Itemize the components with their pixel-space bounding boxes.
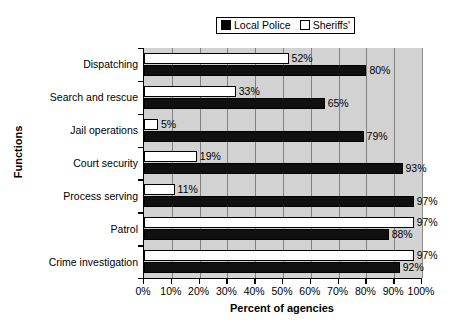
bar-sheriffs: [144, 86, 236, 97]
x-axis-tick-label: 50%: [271, 285, 292, 298]
x-axis-tick-label: 100%: [408, 285, 435, 298]
legend-item-sheriffs: Sheriffs': [300, 19, 350, 31]
bar-sheriffs: [144, 217, 414, 228]
y-axis-category-label: Patrol: [111, 223, 138, 235]
bar-value-label-local-police: 65%: [325, 98, 349, 109]
bar-local-police: [144, 98, 325, 109]
bar-value-label-sheriffs: 97%: [414, 250, 438, 261]
legend-swatch-sheriffs-icon: [300, 20, 310, 30]
x-axis-tick-label: 60%: [299, 285, 320, 298]
bar-sheriffs: [144, 53, 289, 64]
x-axis-tick: [199, 279, 200, 284]
x-axis-tick: [310, 279, 311, 284]
bar-sheriffs: [144, 250, 414, 261]
x-axis-tick: [421, 279, 422, 284]
bar-value-label-local-police: 79%: [364, 131, 388, 142]
x-axis-tick-label: 30%: [216, 285, 237, 298]
bar-sheriffs: [144, 184, 175, 195]
bar-value-label-sheriffs: 19%: [197, 151, 221, 162]
x-axis-tick-label: 70%: [327, 285, 348, 298]
bar-sheriffs: [144, 151, 197, 162]
y-axis-category-label: Jail operations: [70, 124, 138, 136]
chart-bar-group: 19%93%: [144, 147, 422, 180]
y-axis-category-label: Dispatching: [83, 58, 138, 70]
bar-value-label-sheriffs: 97%: [414, 217, 438, 228]
x-axis-tick: [393, 279, 394, 284]
x-axis-tick-label: 10%: [160, 285, 181, 298]
x-axis-tick-label: 0%: [135, 285, 150, 298]
bar-local-police: [144, 229, 389, 240]
x-axis-ticks: [143, 279, 421, 284]
legend-label-sheriffs: Sheriffs': [313, 19, 350, 31]
y-axis-category-label: Crime investigation: [49, 256, 138, 268]
bar-value-label-local-police: 93%: [403, 163, 427, 174]
y-axis-category-labels: DispatchingSearch and rescueJail operati…: [0, 48, 138, 278]
x-axis-tick: [171, 279, 172, 284]
x-axis-tick-label: 20%: [188, 285, 209, 298]
chart-legend: Local Police Sheriffs': [216, 17, 355, 34]
chart-plot-area: 52%80%33%65%5%79%19%93%11%97%97%88%97%92…: [143, 48, 422, 279]
bar-local-police: [144, 131, 364, 142]
x-axis-tick: [338, 279, 339, 284]
x-axis-tick: [254, 279, 255, 284]
chart-bar-group: 33%65%: [144, 81, 422, 114]
bar-value-label-sheriffs: 33%: [236, 86, 260, 97]
bar-value-label-local-police: 88%: [389, 229, 413, 240]
bar-sheriffs: [144, 119, 158, 130]
bar-local-police: [144, 196, 414, 207]
chart-bar-group: 97%92%: [144, 245, 422, 278]
bar-value-label-sheriffs: 52%: [289, 53, 313, 64]
legend-swatch-local-police-icon: [221, 20, 231, 30]
y-axis-category-label: Court security: [73, 157, 138, 169]
bar-local-police: [144, 262, 400, 273]
bar-local-police: [144, 65, 366, 76]
x-axis-tick: [282, 279, 283, 284]
bar-value-label-local-police: 97%: [414, 196, 438, 207]
x-axis-tick-label: 90%: [383, 285, 404, 298]
x-axis-tick: [365, 279, 366, 284]
chart-bar-group: 52%80%: [144, 48, 422, 81]
bar-value-label-local-police: 80%: [366, 65, 390, 76]
chart-bar-group: 97%88%: [144, 212, 422, 245]
bar-local-police: [144, 163, 403, 174]
bar-value-label-sheriffs: 5%: [158, 119, 176, 130]
y-axis-category-label: Process serving: [63, 190, 138, 202]
legend-label-local-police: Local Police: [234, 19, 291, 31]
chart-bar-group: 11%97%: [144, 179, 422, 212]
x-axis-tick-label: 40%: [244, 285, 265, 298]
y-axis-category-label: Search and rescue: [50, 91, 138, 103]
x-axis-tick-labels: 0%10%20%30%40%50%60%70%80%90%100%: [143, 285, 421, 299]
x-axis-tick: [226, 279, 227, 284]
bar-value-label-local-police: 92%: [400, 262, 424, 273]
bar-value-label-sheriffs: 11%: [175, 184, 198, 195]
chart-bar-group: 5%79%: [144, 114, 422, 147]
legend-item-local-police: Local Police: [221, 19, 291, 31]
x-axis-tick-label: 80%: [355, 285, 376, 298]
chart-bars: 52%80%33%65%5%79%19%93%11%97%97%88%97%92…: [144, 48, 422, 278]
x-axis-tick: [143, 279, 144, 284]
x-axis-title: Percent of agencies: [143, 302, 421, 314]
